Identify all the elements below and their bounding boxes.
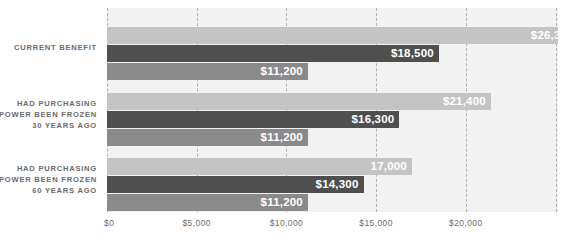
category-label: CURRENT BENEFIT <box>0 42 97 53</box>
bar-row: $11,200 <box>107 194 558 211</box>
category-label: HAD PURCHASINGPOWER BEEN FROZEN60 YEARS … <box>0 163 97 196</box>
x-tick-label: $0 <box>104 218 114 228</box>
x-axis: $0$5,000$10,000$15,000$20,000 <box>0 218 563 240</box>
bar-row: $18,500 <box>107 45 558 62</box>
bar-value-label: $14,300 <box>107 176 364 193</box>
category-label: HAD PURCHASINGPOWER BEEN FROZEN30 YEARS … <box>0 98 97 131</box>
category-label-line: HAD PURCHASING <box>0 163 97 174</box>
bar-value-label: 17,000 <box>107 158 412 175</box>
bar-row: $14,300 <box>107 176 558 193</box>
category-label-line: CURRENT BENEFIT <box>0 42 97 53</box>
bar-group: $21,400$16,300$11,200 <box>107 93 558 147</box>
bar-row: $21,400 <box>107 93 558 110</box>
category-label-line: 30 YEARS AGO <box>0 120 97 131</box>
bar-value-label: $21,400 <box>107 93 491 110</box>
bar-value-label: $18,500 <box>107 45 439 62</box>
bar-value-label: $11,200 <box>107 194 308 211</box>
category-label-line: 60 YEARS AGO <box>0 185 97 196</box>
bar-row: 17,000 <box>107 158 558 175</box>
bar-group: 17,000$14,300$11,200 <box>107 158 558 212</box>
bar-row: $16,300 <box>107 111 558 128</box>
bar-row: $11,200 <box>107 129 558 146</box>
x-tick-label: $10,000 <box>270 218 304 228</box>
bar-value-label: $16,300 <box>107 111 399 128</box>
x-tick-label: $15,000 <box>359 218 393 228</box>
category-label-line: POWER BEEN FROZEN <box>0 174 97 185</box>
plot-area: $26,300$18,500$11,200$21,400$16,300$11,2… <box>107 8 558 212</box>
bar-row: $11,200 <box>107 63 558 80</box>
category-label-line: HAD PURCHASING <box>0 98 97 109</box>
bar-chart: $26,300$18,500$11,200$21,400$16,300$11,2… <box>0 0 563 252</box>
x-tick-label: $5,000 <box>182 218 210 228</box>
category-label-line: POWER BEEN FROZEN <box>0 109 97 120</box>
bar-value-label: $11,200 <box>107 63 308 80</box>
x-tick-label: $20,000 <box>449 218 483 228</box>
bar-value-label: $26,300 <box>107 27 558 44</box>
bar-row: $26,300 <box>107 27 558 44</box>
bar-value-label: $11,200 <box>107 129 308 146</box>
bar-group: $26,300$18,500$11,200 <box>107 27 558 81</box>
